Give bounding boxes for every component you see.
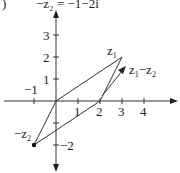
vector-z1-minus-z2: [102, 70, 123, 96]
point-neg-z2: [32, 143, 36, 147]
diff-arrow-icon: [118, 66, 126, 74]
x-tick-neg1: −1: [24, 82, 38, 97]
complex-plane-diagram: ) −z₂ = −1−2i −1 1 2 3 4 3 2 1 −2 z1 z1−…: [0, 0, 180, 173]
label-z1: z1: [107, 43, 117, 60]
segment-origin-negz2: [34, 101, 56, 145]
y-axis-down-arrow-icon: [53, 164, 59, 172]
equation-text: −z₂ = −1−2i: [36, 0, 99, 11]
y-tick-3: 3: [43, 28, 50, 43]
x-axis-arrow-icon: [170, 98, 178, 104]
part-label: ): [2, 0, 6, 11]
y-tick-1: 1: [43, 72, 50, 87]
label-neg-z2: −z2: [14, 126, 31, 143]
y-tick-2: 2: [43, 50, 50, 65]
label-z1-minus-z2: z1−z2: [129, 62, 156, 79]
x-tick-3: 3: [118, 104, 125, 119]
x-tick-4: 4: [140, 104, 147, 119]
y-tick-neg2: −2: [60, 138, 74, 153]
x-tick-2: 2: [96, 104, 103, 119]
y-axis-up-arrow-icon: [53, 10, 59, 18]
segment-origin-z1: [56, 57, 122, 101]
